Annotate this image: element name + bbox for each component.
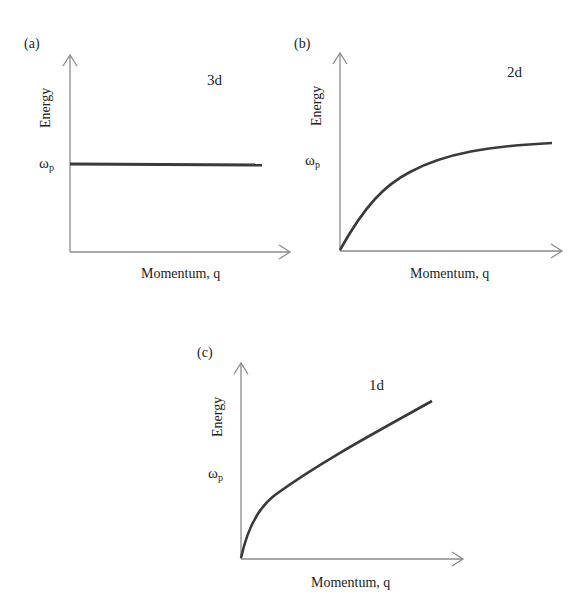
panel-a-dimension: 3d (207, 72, 222, 89)
panel-b-dimension: 2d (507, 64, 522, 81)
panel-a-axes (63, 55, 290, 259)
omega-subscript: p (218, 472, 223, 483)
panel-c-ylabel: Energy (210, 397, 226, 437)
panel-a-ylabel: Energy (38, 88, 54, 128)
omega-symbol: ω (208, 465, 218, 481)
panel-b-xlabel: Momentum, q (410, 266, 489, 282)
omega-symbol: ω (39, 155, 49, 171)
panel-c-id: (c) (197, 345, 213, 361)
panel-b-axes (333, 53, 562, 258)
figure-canvas (0, 0, 585, 615)
panel-a-curve (70, 164, 262, 165)
omega-subscript: p (315, 159, 320, 170)
panel-a-xlabel: Momentum, q (141, 266, 220, 282)
panel-a-omega-p: ωp (39, 155, 54, 173)
omega-symbol: ω (305, 152, 315, 168)
panel-a-id: (a) (24, 36, 40, 52)
panel-b-omega-p: ωp (305, 152, 320, 170)
omega-subscript: p (49, 162, 54, 173)
panel-c-xlabel: Momentum, q (311, 575, 390, 591)
panel-b-curve (340, 143, 552, 250)
panel-c-dimension: 1d (369, 377, 384, 394)
panel-b-id: (b) (294, 36, 310, 52)
panel-c-axes (234, 363, 463, 566)
panel-b-ylabel: Energy (309, 86, 325, 126)
panel-c-omega-p: ωp (208, 465, 223, 483)
panel-c-curve (241, 401, 432, 558)
